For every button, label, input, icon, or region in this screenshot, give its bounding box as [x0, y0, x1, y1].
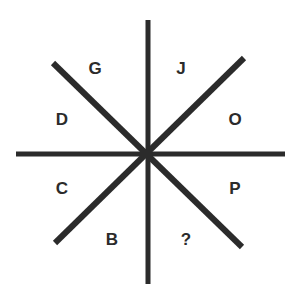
label-j: J — [176, 59, 185, 78]
label-p: P — [229, 179, 240, 198]
puzzle-diagram: G J D O C P B ? — [0, 0, 301, 298]
label-g: G — [88, 59, 101, 78]
lines-layer: G J D O C P B ? — [0, 0, 301, 298]
label-d: D — [56, 110, 68, 129]
label-question-mark: ? — [181, 230, 191, 249]
label-b: B — [106, 230, 118, 249]
label-o: O — [228, 110, 241, 129]
label-c: C — [56, 179, 68, 198]
